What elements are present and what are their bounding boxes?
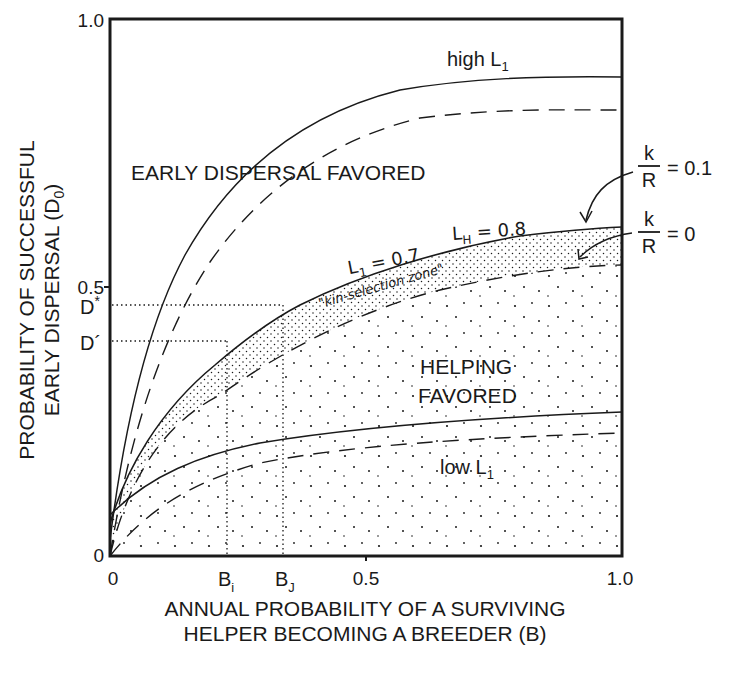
kr-0-value: = 0 [667,223,695,245]
kr-01-k: k [644,142,655,164]
arrow-kr-01-head [580,211,592,222]
helping-favored-label-2: FAVORED [418,384,517,407]
kr-01-legend: k R = 0.1 [638,142,712,191]
y-tick-label-05: 0.5 [78,277,104,298]
x-axis-title-line1: ANNUAL PROBABILITY OF A SURVIVING [164,597,565,620]
y-axis-title: PROBABILITY OF SUCCESSFUL EARLY DISPERSA… [15,140,67,459]
chart-figure: 1.0 0.5 0 0 0.5 1.0 D* D´ Bi BJ PROBABIL… [0,0,729,675]
kr-0-k: k [644,208,655,230]
kr-01-value: = 0.1 [667,157,712,179]
y-axis-title-line2: EARLY DISPERSAL (D0) [40,184,67,417]
b-j-label: BJ [275,568,295,595]
y-tick-label-1: 1.0 [78,10,104,31]
d-star-label: D* [80,293,100,318]
b-i-label: Bi [218,568,234,595]
kr-0-legend: k R = 0 [638,208,695,257]
y-tick-label-0: 0 [93,545,104,566]
arrow-kr-01 [586,172,633,220]
high-l1-label: high L1 [447,48,509,74]
early-dispersal-favored-label: EARLY DISPERSAL FAVORED [131,161,426,184]
x-axis-title-line2: HELPER BECOMING A BREEDER (B) [184,622,547,645]
x-tick-label-0: 0 [108,568,119,589]
kr-0-r: R [642,235,656,257]
kr-01-r: R [642,169,656,191]
d-prime-label: D´ [80,332,101,354]
y-axis-title-line1: PROBABILITY OF SUCCESSFUL [15,140,38,459]
x-tick-label-1: 1.0 [607,568,633,589]
helping-favored-label-1: HELPING [420,355,512,378]
x-tick-label-05: 0.5 [353,568,379,589]
